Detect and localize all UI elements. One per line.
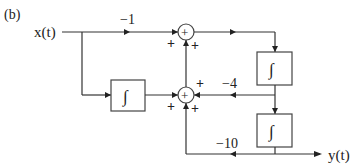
arrow-icon: [172, 29, 178, 35]
arrow-icon: [183, 40, 189, 46]
arrow-icon: [230, 92, 236, 98]
arrow-icon: [124, 29, 130, 35]
gain-feedforward: −1: [120, 12, 135, 27]
summer-top-sign-bottom: +: [191, 38, 199, 53]
gain-feedback-mid: −4: [222, 76, 237, 91]
integrator-left: [111, 80, 145, 111]
integrator-bottom-right: [257, 114, 292, 147]
summer-top-sign-left: +: [167, 36, 175, 51]
output-label: y(t): [328, 147, 350, 164]
summer-bottom-symbol: +: [181, 88, 188, 103]
summer-bottom-sign-right: +: [196, 76, 204, 91]
input-label: x(t): [34, 24, 56, 41]
panel-label: (b): [4, 7, 21, 23]
arrow-icon: [272, 46, 278, 52]
arrow-icon: [314, 151, 322, 157]
arrow-icon: [272, 108, 278, 114]
arrow-icon: [230, 151, 236, 157]
arrow-icon: [172, 92, 178, 98]
summer-top-symbol: +: [181, 25, 188, 40]
gain-feedback-low: −10: [216, 136, 238, 151]
integrator-top-right: [257, 52, 292, 85]
arrow-icon: [105, 92, 111, 98]
summer-bottom-sign-left: +: [167, 99, 175, 114]
arrow-icon: [194, 92, 200, 98]
arrow-icon: [183, 103, 189, 109]
summer-bottom-sign-bottom: +: [191, 101, 199, 116]
block-diagram: (b) x(t) y(t) −1 ∫ + + + ∫ −4 + + + + ∫: [0, 0, 360, 168]
arrow-icon: [230, 29, 236, 35]
